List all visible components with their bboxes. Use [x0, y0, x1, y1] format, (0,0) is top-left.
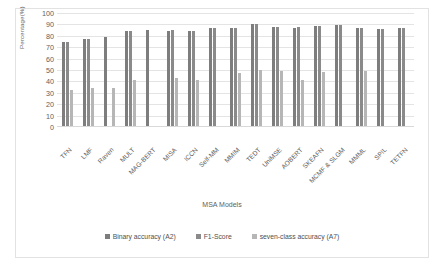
bar: [259, 70, 262, 126]
y-tick-label: 80: [46, 31, 54, 40]
y-tick-label: 100: [42, 9, 54, 18]
x-tick-slot: MAG-BERT: [141, 145, 162, 197]
x-tick-label: MISA: [161, 146, 177, 162]
bar-group: [120, 13, 141, 126]
bar: [230, 28, 233, 126]
bar: [175, 78, 178, 126]
x-tick-label: ICCN: [182, 146, 198, 162]
chart-container: Percentage(%) 1009080706050403020100 TFN…: [15, 8, 429, 258]
bar-group: [246, 13, 267, 126]
bar: [171, 30, 174, 126]
bar: [234, 28, 237, 126]
x-tick-label: TFN: [58, 146, 72, 160]
bar: [381, 29, 384, 126]
legend-label: F1-Score: [204, 233, 232, 240]
bar: [87, 39, 90, 126]
legend-item[interactable]: F1-Score: [196, 233, 232, 240]
bar: [301, 80, 304, 126]
x-axis-tick-labels: TFNLMFRavenMULTMAG-BERTMISAICCNSelf-MMMM…: [57, 145, 414, 197]
x-tick-slot: TFN: [57, 145, 78, 197]
x-tick-slot: MMML: [351, 145, 372, 197]
bar: [398, 28, 401, 126]
bar: [360, 28, 363, 126]
legend-swatch-icon: [196, 234, 201, 239]
bar: [314, 26, 317, 126]
bar-group: [309, 13, 330, 126]
bar-group: [288, 13, 309, 126]
bar: [364, 71, 367, 126]
bar: [133, 80, 136, 126]
bar-group: [393, 13, 414, 126]
x-tick-slot: SPIL: [372, 145, 393, 197]
bar-group: [204, 13, 225, 126]
x-tick-slot: MMIM: [225, 145, 246, 197]
x-tick-slot: TETFN: [393, 145, 414, 197]
bar-group: [141, 13, 162, 126]
x-tick-slot: MISA: [162, 145, 183, 197]
y-tick-label: 30: [46, 88, 54, 97]
bar-group: [99, 13, 120, 126]
bar: [91, 88, 94, 126]
chart-legend: Binary accuracy (A2)F1-Scoreseven-class …: [16, 233, 428, 240]
x-tick-label: MMIM: [222, 146, 240, 164]
y-tick-label: 20: [46, 100, 54, 109]
bar-group: [267, 13, 288, 126]
x-tick-label: MULT: [118, 146, 135, 163]
bar: [276, 27, 279, 126]
legend-item[interactable]: seven-class accuracy (A7): [252, 233, 340, 240]
bar: [62, 42, 65, 126]
y-tick-label: 40: [46, 77, 54, 86]
bar: [66, 42, 69, 126]
y-tick-label: 0: [50, 123, 54, 132]
bar-group: [57, 13, 78, 126]
bar: [402, 28, 405, 126]
legend-item[interactable]: Binary accuracy (A2): [105, 233, 176, 240]
bar: [293, 28, 296, 126]
bar: [146, 30, 149, 126]
bar: [297, 27, 300, 126]
bar: [129, 31, 132, 126]
bar: [251, 24, 254, 126]
bar: [83, 39, 86, 126]
bar-group: [162, 13, 183, 126]
x-tick-label: Raven: [96, 146, 115, 165]
bar: [280, 71, 283, 126]
bar-group: [183, 13, 204, 126]
bar: [238, 73, 241, 126]
bar: [188, 31, 191, 126]
bar-group: [372, 13, 393, 126]
bar-group: [330, 13, 351, 126]
x-tick-slot: Self-MM: [204, 145, 225, 197]
bar: [112, 88, 115, 126]
plot-area-wrapper: 1009080706050403020100: [36, 13, 414, 141]
legend-swatch-icon: [105, 234, 110, 239]
bar: [70, 90, 73, 126]
y-tick-label: 60: [46, 54, 54, 63]
legend-label: seven-class accuracy (A7): [260, 233, 340, 240]
y-tick-label: 10: [46, 111, 54, 120]
bar: [196, 80, 199, 126]
legend-swatch-icon: [252, 234, 257, 239]
bar-group: [351, 13, 372, 126]
bar: [318, 26, 321, 126]
plot-area: [57, 13, 414, 127]
bar: [255, 24, 258, 126]
bar: [377, 29, 380, 126]
x-axis-title: MSA Models: [16, 201, 428, 208]
bar: [167, 31, 170, 126]
x-tick-slot: AOBERT: [288, 145, 309, 197]
x-tick-label: TEDT: [244, 146, 261, 163]
x-tick-slot: TEDT: [246, 145, 267, 197]
x-tick-slot: LMF: [78, 145, 99, 197]
bar: [322, 72, 325, 126]
y-axis-tick-labels: 1009080706050403020100: [36, 13, 56, 127]
x-tick-label: LMF: [79, 146, 93, 160]
bar: [272, 27, 275, 126]
y-tick-label: 70: [46, 43, 54, 52]
bar: [339, 25, 342, 126]
bar: [335, 25, 338, 126]
bar: [192, 31, 195, 126]
bar: [104, 37, 107, 126]
bar: [125, 31, 128, 126]
x-tick-label: SPIL: [372, 146, 387, 161]
